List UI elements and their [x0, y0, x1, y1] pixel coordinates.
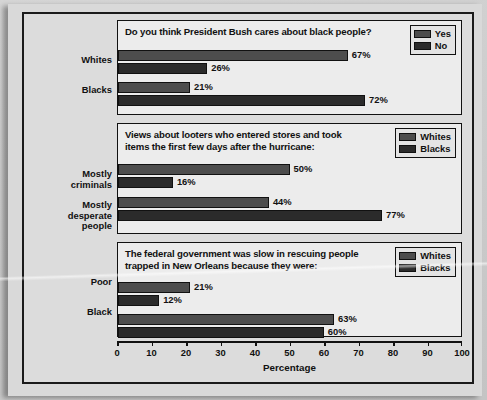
- panel2-title: Views about looters who entered stores a…: [125, 129, 375, 153]
- legend-swatch-blacks: [399, 145, 416, 153]
- bar-row: 26%: [118, 63, 461, 74]
- bar-whites-no: [118, 63, 207, 74]
- panel1-header: Do you think President Bush cares about …: [118, 21, 461, 44]
- panel3-header: The federal government was slow in rescu…: [118, 243, 461, 276]
- axis-tick-label: 70: [353, 347, 363, 358]
- axis-tick-label: 0: [114, 347, 119, 358]
- legend-swatch-no: [414, 42, 431, 50]
- bar-desperate-blacks: [118, 210, 382, 221]
- category-label-whites: Whites: [26, 55, 112, 66]
- legend-label-blacks: Blacks: [420, 263, 450, 273]
- bar-row: 72%: [118, 95, 461, 106]
- axis-tick-label: 20: [181, 347, 191, 358]
- axis-tick: [324, 341, 326, 346]
- bar-criminals-whites: [118, 164, 290, 175]
- legend-item-blacks: Blacks: [399, 143, 451, 154]
- bar-whites-yes: [118, 50, 348, 61]
- axis-tick-label: 90: [422, 347, 432, 358]
- axis-tick-label: 50: [284, 347, 294, 358]
- chart-paper: Do you think President Bush cares about …: [8, 4, 482, 396]
- bar-value: 44%: [273, 196, 292, 208]
- bar-row: 12%: [118, 295, 461, 306]
- panel2-legend: Whites Blacks: [395, 128, 456, 158]
- bar-value: 77%: [386, 209, 405, 221]
- axis-tick: [221, 341, 223, 346]
- bar-row: 50%: [118, 164, 461, 175]
- axis-tick: [152, 341, 154, 346]
- panel2-bars: 50% 16% 44% 77%: [118, 164, 461, 221]
- category-label-mostly-desperate: Mostly desperate people: [26, 200, 112, 232]
- bar-value: 50%: [294, 163, 313, 175]
- axis-tick: [290, 341, 292, 346]
- axis-tick: [428, 341, 430, 346]
- category-label-blacks: Blacks: [26, 85, 112, 96]
- category-label-black: Black: [26, 307, 112, 318]
- bar-row: 60%: [118, 327, 461, 338]
- axis-tick: [359, 341, 361, 346]
- bar-value: 21%: [194, 281, 213, 293]
- panel3-title: The federal government was slow in rescu…: [125, 248, 378, 272]
- axis-tick: [393, 341, 395, 346]
- panel1-title: Do you think President Bush cares about …: [125, 26, 375, 38]
- bar-value: 26%: [211, 62, 230, 74]
- panel-bush-cares: Do you think President Bush cares about …: [117, 20, 462, 115]
- legend-swatch-yes: [414, 30, 431, 38]
- bar-value: 60%: [328, 326, 347, 338]
- bar-row: 44%: [118, 197, 461, 208]
- bar-black-whites: [118, 314, 334, 325]
- bar-value: 67%: [352, 49, 371, 61]
- panel-federal-government: The federal government was slow in rescu…: [117, 242, 462, 337]
- legend-label-whites: Whites: [420, 132, 451, 142]
- panel3-legend: Whites Blacks: [395, 247, 456, 277]
- bar-poor-whites: [118, 282, 190, 293]
- bar-value: 12%: [163, 294, 182, 306]
- legend-item-blacks: Blacks: [399, 262, 451, 273]
- legend-label-whites: Whites: [420, 251, 451, 261]
- bar-row: 67%: [118, 50, 461, 61]
- bar-row: 16%: [118, 177, 461, 188]
- bar-group-mostly-desperate: 44% 77%: [118, 197, 461, 221]
- bar-criminals-blacks: [118, 177, 173, 188]
- bar-group-mostly-criminals: 50% 16%: [118, 164, 461, 188]
- legend-label-blacks: Blacks: [420, 144, 450, 154]
- category-label-mostly-criminals: Mostly criminals: [26, 169, 112, 190]
- bar-black-blacks: [118, 327, 324, 338]
- panel1-bars: 67% 26% 21% 72%: [118, 50, 461, 106]
- axis-tick: [461, 341, 463, 346]
- bar-group-whites: 67% 26%: [118, 50, 461, 74]
- category-label-poor: Poor: [26, 277, 112, 288]
- legend-label-no: No: [435, 41, 448, 51]
- legend-item-yes: Yes: [414, 29, 451, 40]
- bar-group-poor: 21% 12%: [118, 282, 461, 306]
- scanned-page-background: Do you think President Bush cares about …: [0, 0, 487, 400]
- bar-row: 21%: [118, 82, 461, 93]
- axis-tick-label: 30: [215, 347, 225, 358]
- x-axis-line: 0 10 20 30 40 50 60 70 80 90 100: [117, 341, 462, 343]
- axis-tick-label: 100: [454, 347, 470, 358]
- axis-tick-label: 80: [388, 347, 398, 358]
- panel2-header: Views about looters who entered stores a…: [118, 124, 461, 157]
- bar-blacks-no: [118, 95, 365, 106]
- x-axis-title: Percentage: [117, 362, 462, 373]
- bar-value: 72%: [369, 94, 388, 106]
- panel-looters: Views about looters who entered stores a…: [117, 123, 462, 234]
- legend-swatch-blacks: [399, 264, 416, 272]
- legend-label-yes: Yes: [435, 29, 451, 39]
- bar-group-black: 63% 60%: [118, 314, 461, 338]
- axis-tick: [186, 341, 188, 346]
- bar-blacks-yes: [118, 82, 190, 93]
- axis-tick: [255, 341, 257, 346]
- axis-tick-label: 60: [319, 347, 329, 358]
- legend-swatch-whites: [399, 252, 416, 260]
- legend-item-whites: Whites: [399, 132, 451, 143]
- bar-value: 21%: [194, 81, 213, 93]
- bar-row: 77%: [118, 210, 461, 221]
- bar-value: 16%: [177, 176, 196, 188]
- bar-desperate-whites: [118, 197, 269, 208]
- bar-row: 63%: [118, 314, 461, 325]
- chart-outer-frame: Do you think President Bush cares about …: [22, 12, 474, 384]
- panel3-bars: 21% 12% 63% 60%: [118, 282, 461, 338]
- axis-tick: [117, 341, 119, 346]
- axis-tick-label: 40: [250, 347, 260, 358]
- bar-row: 21%: [118, 282, 461, 293]
